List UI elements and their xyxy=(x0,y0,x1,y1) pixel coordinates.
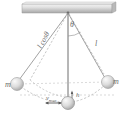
bob-center xyxy=(62,97,75,110)
theta-arc xyxy=(68,32,81,36)
pendulum-diagram: θ l cosθ l m m vmax h xyxy=(0,0,132,117)
label-mass-right: m xyxy=(113,78,119,86)
l-guide-line-right xyxy=(69,14,104,74)
lcos-theta-guide-line xyxy=(30,13,68,80)
label-string-length: l xyxy=(95,40,97,48)
bob-left xyxy=(11,78,24,91)
figure-canvas xyxy=(0,0,132,117)
label-mass-left: m xyxy=(5,81,11,89)
mass-level-line xyxy=(17,82,108,84)
label-v-max-subscript: max xyxy=(49,98,57,103)
label-v-max: vmax xyxy=(46,95,56,104)
ceiling-support xyxy=(22,2,116,13)
label-height: h xyxy=(76,92,80,99)
label-theta: θ xyxy=(70,21,74,29)
